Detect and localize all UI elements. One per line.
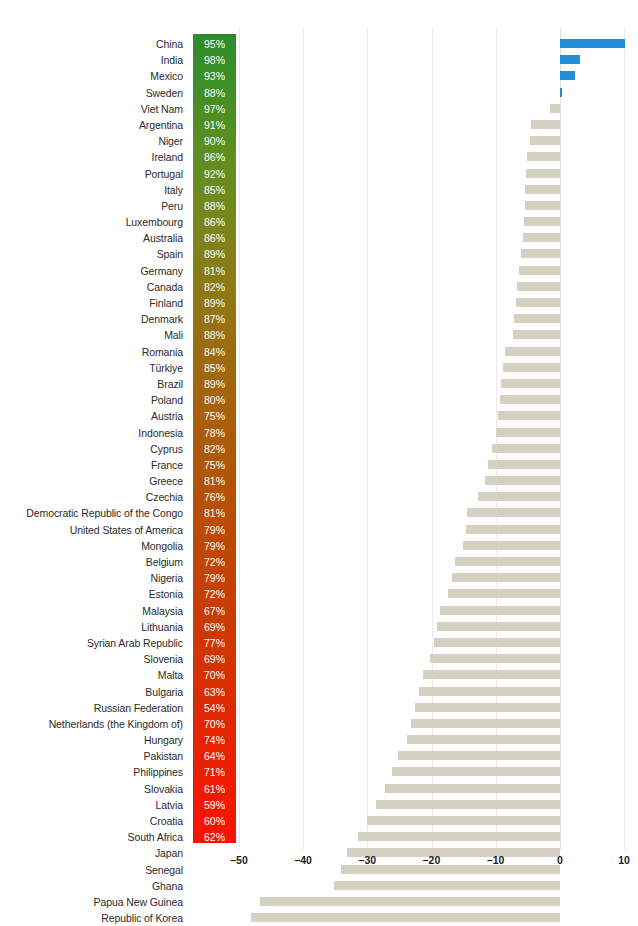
percentage-label: 71% <box>193 764 236 780</box>
bar <box>525 185 560 194</box>
percentage-label: 77% <box>193 635 236 651</box>
category-label: Lithuania <box>0 619 189 635</box>
percentage-label: 88% <box>193 85 236 101</box>
category-label: Pakistan <box>0 748 189 764</box>
percentage-value-column: 95%98%93%88%97%91%90%86%92%85%88%86%86%8… <box>193 36 236 926</box>
bar <box>498 411 560 420</box>
percentage-label: 70% <box>193 716 236 732</box>
bar <box>521 249 560 258</box>
gridline <box>624 28 625 850</box>
percentage-label: 72% <box>193 554 236 570</box>
bar-row <box>239 716 624 732</box>
percentage-label: 90% <box>193 133 236 149</box>
percentage-label: 63% <box>193 684 236 700</box>
category-label: Czechia <box>0 489 189 505</box>
bar <box>411 719 560 728</box>
bar <box>501 379 559 388</box>
bar <box>550 104 560 113</box>
percentage-label: 79% <box>193 522 236 538</box>
percentage-label: 89% <box>193 376 236 392</box>
bar <box>385 784 560 793</box>
bar <box>448 589 560 598</box>
category-label: Viet Nam <box>0 101 189 117</box>
bar <box>560 39 625 48</box>
percentage-label: 54% <box>193 700 236 716</box>
x-axis-tick-labels: –50–40–30–20–10010 <box>239 854 624 874</box>
bar <box>419 687 560 696</box>
bar-row <box>239 829 624 845</box>
percentage-label: 72% <box>193 586 236 602</box>
category-label: Luxembourg <box>0 214 189 230</box>
category-label: Malaysia <box>0 603 189 619</box>
category-label: Mongolia <box>0 538 189 554</box>
bar <box>423 670 560 679</box>
percentage-label: 81% <box>193 505 236 521</box>
percentage-label: 60% <box>193 878 236 894</box>
bar-row <box>239 586 624 602</box>
percentage-label: 70% <box>193 667 236 683</box>
x-tick-label: –20 <box>423 854 441 866</box>
bar-row <box>239 457 624 473</box>
category-label: Sweden <box>0 85 189 101</box>
bar-row <box>239 295 624 311</box>
bar <box>367 816 560 825</box>
percentage-label: 82% <box>193 279 236 295</box>
bar-row <box>239 279 624 295</box>
bar <box>334 881 560 890</box>
category-label: Austria <box>0 408 189 424</box>
bar <box>251 913 560 922</box>
percentage-label: 85% <box>193 360 236 376</box>
bar <box>516 298 560 307</box>
bar-row <box>239 505 624 521</box>
bar <box>526 169 559 178</box>
percentage-label: 75% <box>193 408 236 424</box>
bar-row <box>239 473 624 489</box>
percentage-label: 97% <box>193 101 236 117</box>
bar <box>392 767 559 776</box>
bar-row <box>239 570 624 586</box>
percentage-label: 81% <box>193 473 236 489</box>
percentage-label: 75% <box>193 457 236 473</box>
bar <box>407 735 560 744</box>
category-label: Slovakia <box>0 781 189 797</box>
bar-row <box>239 603 624 619</box>
category-label: Australia <box>0 230 189 246</box>
bar <box>503 363 560 372</box>
bar <box>530 136 560 145</box>
bar <box>434 638 560 647</box>
category-label: Mexico <box>0 68 189 84</box>
percentage-label: 86% <box>193 214 236 230</box>
bar-row <box>239 894 624 910</box>
percentage-label: 81% <box>193 263 236 279</box>
category-label: Poland <box>0 392 189 408</box>
percentage-label: 88% <box>193 327 236 343</box>
category-label: Spain <box>0 246 189 262</box>
percentage-label: 82% <box>193 441 236 457</box>
category-label: Netherlands (the Kingdom of) <box>0 716 189 732</box>
bar-row <box>239 408 624 424</box>
category-label: Slovenia <box>0 651 189 667</box>
percentage-label: 64% <box>193 748 236 764</box>
category-label: Bulgaria <box>0 684 189 700</box>
percentage-label: 61% <box>193 781 236 797</box>
percentage-label: 48% <box>193 910 236 926</box>
category-label: Belgium <box>0 554 189 570</box>
bar-row <box>239 327 624 343</box>
bar <box>478 492 559 501</box>
bar-row <box>239 263 624 279</box>
percentage-label: 79% <box>193 538 236 554</box>
percentage-label: 69% <box>193 619 236 635</box>
bar-row <box>239 651 624 667</box>
bar <box>519 266 559 275</box>
bar-row <box>239 684 624 700</box>
percentage-label: 86% <box>193 149 236 165</box>
bar-row <box>239 635 624 651</box>
percentage-label: 93% <box>193 68 236 84</box>
bar-row <box>239 441 624 457</box>
category-label: Finland <box>0 295 189 311</box>
percentage-label: 74% <box>193 732 236 748</box>
percentage-label: 89% <box>193 246 236 262</box>
bar <box>358 832 559 841</box>
bar <box>440 606 559 615</box>
bar-row <box>239 344 624 360</box>
